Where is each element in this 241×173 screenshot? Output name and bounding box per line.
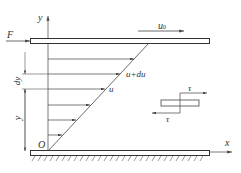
couette-flow-diagram: y x O F u0 u+du u dy y τ τ: [0, 0, 241, 173]
tau-bottom-label: τ: [166, 114, 169, 124]
force-label: F: [7, 30, 13, 40]
origin-label: O: [38, 140, 45, 150]
velocity-arrows: [48, 59, 134, 135]
dy-label: dy: [12, 77, 22, 86]
diagram-canvas: [0, 0, 241, 173]
velocity-label: u: [109, 84, 114, 94]
y-height-label: y: [13, 116, 23, 120]
x-axis-label: x: [225, 138, 229, 148]
velocity-upper-label: u+du: [126, 69, 146, 79]
ground-hatching: [32, 156, 203, 161]
y-axis-label: y: [38, 13, 42, 23]
moving-plate: [31, 39, 210, 44]
plate-velocity-label: u0: [158, 21, 166, 32]
fixed-plate: [31, 151, 210, 156]
tau-top-label: τ: [188, 83, 191, 93]
